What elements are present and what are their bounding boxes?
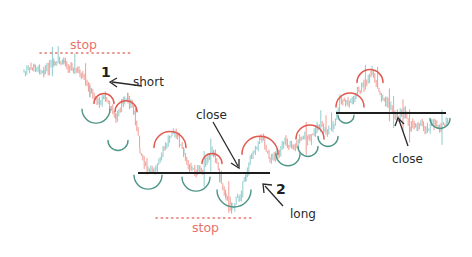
swing-low-arc <box>318 137 338 147</box>
short-label: short <box>133 75 164 89</box>
close-label-1: close <box>196 108 227 122</box>
swing-low-arc <box>108 141 128 151</box>
stop-label-top: stop <box>70 38 97 52</box>
price-candles <box>24 46 448 214</box>
swing-low-arc <box>338 115 354 123</box>
swing-low-arc <box>217 190 251 207</box>
entry-number-1: 1 <box>101 65 111 79</box>
swing-low-arc <box>134 175 162 189</box>
close-label-2: close <box>392 152 423 166</box>
swing-low-arc <box>298 147 318 157</box>
entry-number-2: 2 <box>276 182 286 196</box>
swing-low-arc <box>82 109 110 123</box>
long-label: long <box>290 207 316 221</box>
stop-label-bottom: stop <box>192 221 219 235</box>
swing-low-arc <box>182 177 210 191</box>
